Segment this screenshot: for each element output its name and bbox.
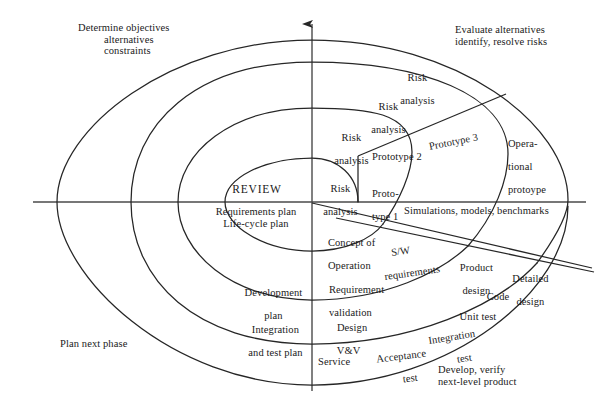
- sw-requirements-label: S/W requirements: [368, 229, 442, 295]
- acc-test-line: test: [390, 371, 418, 386]
- spiral-model-diagram: Determine objectivesalternativesconstrai…: [0, 0, 615, 413]
- int-plan-line: and test plan: [248, 347, 302, 358]
- service-label: Service: [318, 356, 350, 368]
- risk-analysis-line: analysis: [371, 124, 406, 135]
- heading-line: Evaluate alternatives: [455, 24, 545, 35]
- heading-line: constraints: [78, 45, 151, 57]
- int-test-line: Integration: [428, 327, 476, 345]
- op-proto-line: tional: [508, 161, 533, 172]
- risk-analysis-line: Risk: [408, 72, 428, 83]
- risk-analysis-line: Risk: [331, 183, 351, 194]
- risk-analysis-line: analysis: [400, 95, 435, 106]
- detailed-design-label: Detailed design: [501, 261, 548, 319]
- prototype-line: Proto-: [372, 188, 399, 199]
- heading-determine-objectives: Determine objectivesalternativesconstrai…: [78, 22, 170, 57]
- op-proto-line: Opera-: [508, 138, 538, 149]
- acceptance-test-label: Acceptance test: [364, 336, 431, 400]
- risk-analysis-line: analysis: [334, 155, 369, 166]
- det-design-line: design: [516, 296, 544, 307]
- prod-design-line: Product: [460, 262, 493, 273]
- concept-line: Operation: [328, 260, 371, 271]
- requirements-plan-label: Requirements plan: [216, 206, 297, 218]
- dev-plan-line: Development: [245, 287, 303, 298]
- prototype-2-label: Prototype 2: [372, 151, 422, 163]
- heading-line: alternatives: [78, 34, 154, 46]
- review-label: REVIEW: [232, 184, 282, 196]
- simulations-label: Simulations, models, benchmarks: [404, 205, 549, 217]
- heading-line: Determine objectives: [78, 22, 170, 33]
- sw-req-line: S/W: [380, 244, 410, 259]
- design-vv-line: Design: [337, 322, 367, 333]
- prototype-line: type 1: [372, 211, 399, 222]
- op-proto-line: protoype: [508, 184, 546, 195]
- int-test-line: test: [438, 351, 472, 368]
- design-vv-line: V&V: [337, 345, 361, 356]
- risk-analysis-label-4: Risk analysis: [312, 171, 358, 229]
- heading-plan-next-phase: Plan next phase: [60, 338, 127, 350]
- int-plan-line: Integration: [252, 324, 299, 335]
- integration-test-plan-label: Integration and test plan: [237, 312, 302, 370]
- det-design-line: Detailed: [512, 273, 548, 284]
- risk-analysis-label-1: Risk analysis: [389, 60, 435, 118]
- risk-analysis-line: Risk: [342, 132, 362, 143]
- heading-line: identify, resolve risks: [455, 36, 547, 47]
- risk-analysis-line: analysis: [323, 206, 358, 217]
- heading-line: Plan next phase: [60, 338, 127, 349]
- lifecycle-plan-label: Life-cycle plan: [223, 218, 288, 230]
- code-label: Code: [487, 291, 510, 303]
- operational-prototype-label: Opera- tional protoype: [497, 126, 546, 207]
- acc-test-line: Acceptance: [376, 347, 427, 364]
- sw-req-line: requirements: [384, 263, 441, 282]
- heading-evaluate-alternatives: Evaluate alternativesidentify, resolve r…: [455, 24, 547, 47]
